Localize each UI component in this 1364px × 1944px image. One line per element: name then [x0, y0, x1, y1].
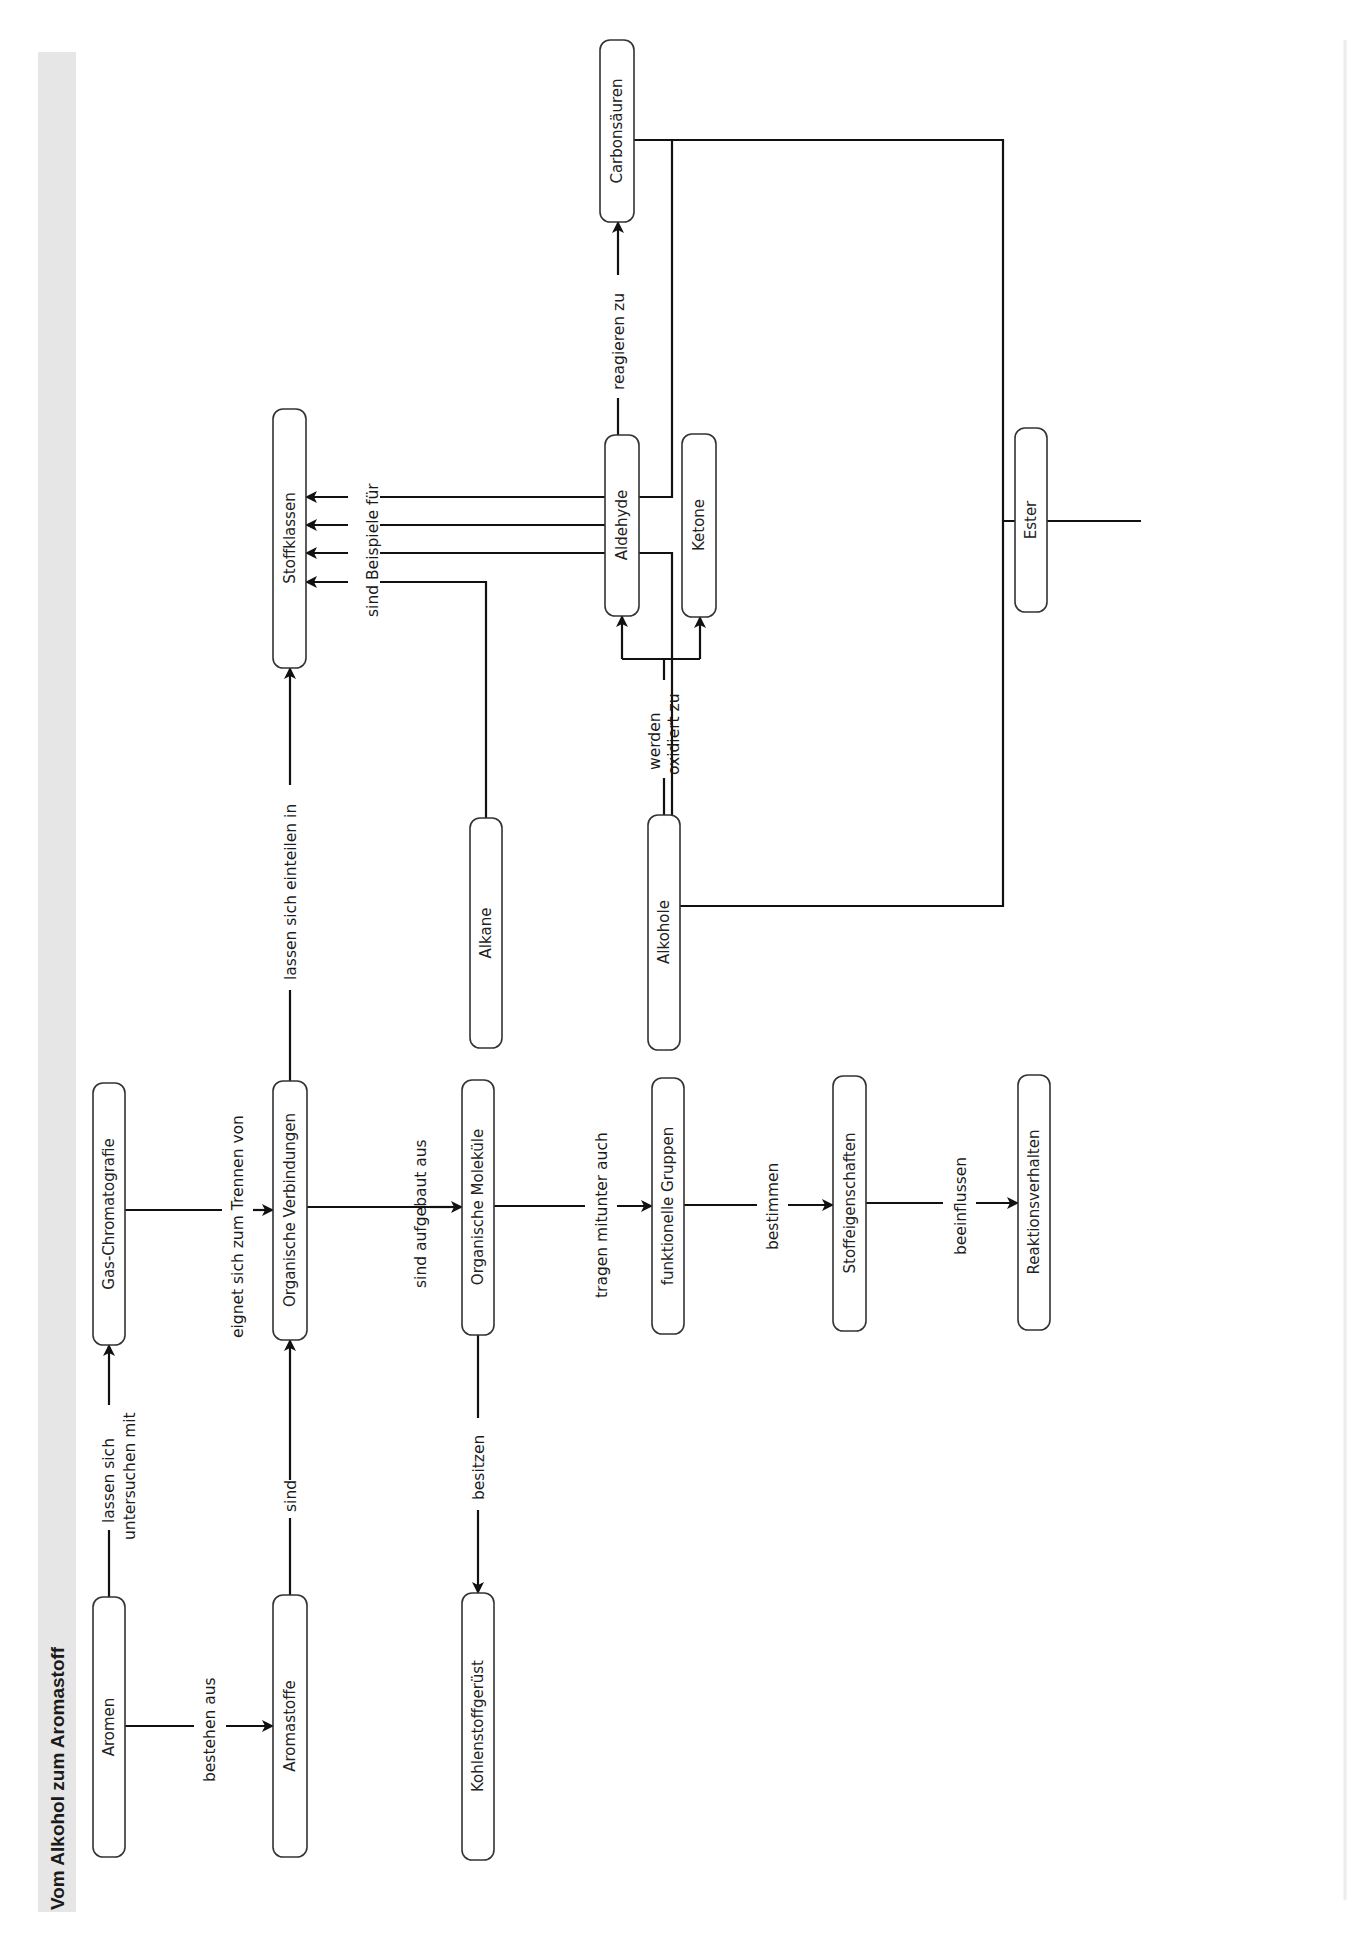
svg-text:funktionelle Gruppen: funktionelle Gruppen	[659, 1127, 677, 1285]
edge-label-eignet-sich: eignet sich zum Trennen von	[229, 1115, 247, 1338]
edge-eignet-sich: eignet sich zum Trennen von	[125, 1115, 273, 1338]
node-gas-chromatografie: Gas-Chromatografie	[93, 1083, 125, 1345]
node-funktionelle-gruppen: funktionelle Gruppen	[652, 1078, 684, 1334]
edge-tragen-mitunter-auch: tragen mitunter auch	[494, 1132, 652, 1298]
title-band	[38, 52, 76, 1912]
node-stoffklassen: Stoffklassen	[273, 409, 306, 668]
node-aromen: Aromen	[93, 1597, 125, 1857]
edge-label-werden: werden	[646, 712, 664, 770]
svg-text:Aldehyde: Aldehyde	[613, 490, 631, 560]
svg-text:Aromastoffe: Aromastoffe	[281, 1680, 299, 1772]
node-stoffeigenschaften: Stoffeigenschaften	[833, 1076, 866, 1331]
node-carbonsaeuren: Carbonsäuren	[600, 40, 634, 222]
node-reaktionsverhalten: Reaktionsverhalten	[1018, 1075, 1050, 1330]
node-alkane: Alkane	[470, 818, 502, 1048]
edge-reagieren-zu-carbonsaeuren: reagieren zu	[610, 222, 628, 435]
edge-label-oxidiert-zu: oxidiert zu	[665, 693, 683, 775]
svg-text:Kohlenstoffgerüst: Kohlenstoffgerüst	[469, 1660, 487, 1792]
edge-lassen-sich-einteilen-in: lassen sich einteilen in	[282, 668, 300, 1081]
node-ketone: Ketone	[682, 434, 716, 617]
edge-label-tragen-mitunter-auch: tragen mitunter auch	[593, 1132, 611, 1298]
edge-label-besitzen: besitzen	[470, 1435, 488, 1500]
svg-text:Gas-Chromatografie: Gas-Chromatografie	[100, 1138, 118, 1289]
node-aromastoffe: Aromastoffe	[273, 1595, 307, 1857]
edge-label-beeinflussen: beeinflussen	[952, 1157, 970, 1255]
edge-label-sind-aufgebaut-aus: sind aufgebaut aus	[412, 1139, 430, 1288]
page-title: Vom Alkohol zum Aromastoff	[47, 1646, 68, 1910]
node-organische-molekuele: Organische Moleküle	[462, 1080, 494, 1335]
svg-text:Organische Moleküle: Organische Moleküle	[469, 1129, 487, 1285]
svg-text:Ketone: Ketone	[690, 499, 708, 551]
svg-text:Aromen: Aromen	[100, 1698, 118, 1757]
svg-text:Stoffeigenschaften: Stoffeigenschaften	[841, 1133, 859, 1274]
svg-text:Alkohole: Alkohole	[655, 900, 673, 964]
edge-beeinflussen: beeinflussen	[866, 1157, 1018, 1255]
node-organische-verbindungen: Organische Verbindungen	[273, 1081, 307, 1340]
edge-label-untersuchen-mit: untersuchen mit	[121, 1412, 139, 1540]
svg-text:Carbonsäuren: Carbonsäuren	[608, 78, 626, 183]
svg-text:Organische Verbindungen: Organische Verbindungen	[281, 1113, 299, 1307]
concept-map: Vom Alkohol zum Aromastoff bestehen aus …	[0, 0, 1364, 1944]
edge-untersuchen-mit: lassen sich untersuchen mit	[100, 1345, 139, 1597]
edge-label-lassen-sich-einteilen-in: lassen sich einteilen in	[282, 804, 300, 980]
edge-bestehen-aus: bestehen aus	[125, 1677, 273, 1782]
edge-label-bestehen-aus: bestehen aus	[201, 1677, 219, 1782]
edge-label-lassen-sich: lassen sich	[100, 1438, 118, 1523]
edge-sind-aufgebaut-aus: sind aufgebaut aus	[307, 1139, 462, 1288]
edge-besitzen: besitzen	[470, 1335, 488, 1593]
svg-text:Ester: Ester	[1022, 500, 1040, 539]
edge-label-sind-beispiele-fuer: sind Beispiele für	[364, 483, 382, 617]
svg-text:Stoffklassen: Stoffklassen	[281, 492, 299, 583]
edge-label-sind: sind	[282, 1480, 300, 1512]
edge-werden-oxidiert-zu: werden oxidiert zu	[622, 616, 700, 815]
edge-label-bestimmen: bestimmen	[764, 1163, 782, 1250]
edge-sind: sind	[282, 1340, 300, 1595]
node-ester: Ester	[1015, 428, 1047, 612]
node-kohlenstoffgeruest: Kohlenstoffgerüst	[462, 1593, 494, 1860]
svg-text:Alkane: Alkane	[477, 908, 495, 959]
edge-label-reagieren-zu-1: reagieren zu	[610, 293, 628, 390]
svg-text:Reaktionsverhalten: Reaktionsverhalten	[1025, 1130, 1043, 1275]
node-aldehyde: Aldehyde	[605, 435, 639, 616]
node-alkohole: Alkohole	[648, 815, 680, 1050]
edge-bestimmen: bestimmen	[684, 1163, 833, 1250]
